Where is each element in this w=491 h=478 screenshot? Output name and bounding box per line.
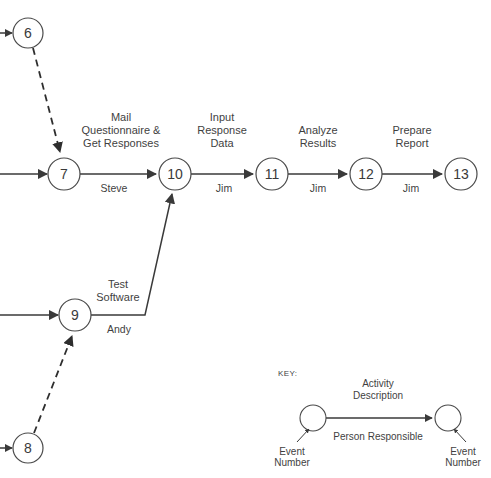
person-label-7-10: Steve xyxy=(101,182,128,194)
person-label-9-10: Andy xyxy=(107,323,132,335)
key-event-circle-left xyxy=(300,405,326,431)
activity-12-13-line1: Prepare xyxy=(392,124,431,136)
key-event-circle-right xyxy=(435,405,461,431)
key-pointer-left xyxy=(297,429,309,442)
key-event-right-line2: Number xyxy=(445,457,481,468)
node-9[interactable]: 9 xyxy=(59,299,91,331)
node-9-label: 9 xyxy=(71,307,79,323)
node-6-label: 6 xyxy=(24,25,32,41)
dummy-activity-6-to-7 xyxy=(33,48,60,152)
node-12-label: 12 xyxy=(358,166,374,182)
activity-10-11-line3: Data xyxy=(210,137,234,149)
person-label-11-12: Jim xyxy=(310,182,327,194)
node-11[interactable]: 11 xyxy=(256,158,288,190)
node-6[interactable]: 6 xyxy=(13,18,43,48)
network-diagram-canvas: 6 7 8 9 10 11 12 13 xyxy=(0,0,491,478)
node-7-label: 7 xyxy=(60,166,68,182)
activity-label-10-11: Input Response Data xyxy=(197,111,247,149)
activity-11-12-line1: Analyze xyxy=(298,124,337,136)
activity-7-10-line2: Questionnaire & xyxy=(82,124,162,136)
node-8[interactable]: 8 xyxy=(13,433,43,463)
key-event-left-line2: Number xyxy=(274,457,310,468)
activity-9-10-line2: Software xyxy=(96,291,139,303)
node-13-label: 13 xyxy=(453,166,469,182)
node-10-label: 10 xyxy=(167,166,183,182)
key-activity-line2: Description xyxy=(353,390,403,401)
key-pointer-right xyxy=(454,429,466,442)
key-legend: KEY: Activity Description Person Respons… xyxy=(274,369,481,468)
person-label-10-11: Jim xyxy=(216,182,233,194)
activity-12-13-line2: Report xyxy=(395,137,428,149)
key-title: KEY: xyxy=(278,369,297,378)
key-person-responsible: Person Responsible xyxy=(333,431,423,442)
key-event-right-line1: Event xyxy=(450,446,476,457)
node-12[interactable]: 12 xyxy=(350,158,382,190)
key-activity-line1: Activity xyxy=(362,378,394,389)
node-8-label: 8 xyxy=(24,440,32,456)
node-13[interactable]: 13 xyxy=(445,158,477,190)
activity-7-10-line1: Mail xyxy=(111,111,131,123)
node-10[interactable]: 10 xyxy=(159,158,191,190)
activity-11-12-line2: Results xyxy=(300,137,337,149)
activity-label-11-12: Analyze Results xyxy=(298,124,337,149)
activity-7-10-line3: Get Responses xyxy=(83,137,159,149)
activity-9-10-line1: Test xyxy=(108,278,128,290)
activity-10-11-line1: Input xyxy=(210,111,234,123)
node-7[interactable]: 7 xyxy=(48,158,80,190)
activity-label-12-13: Prepare Report xyxy=(392,124,431,149)
network-diagram: 6 7 8 9 10 11 12 13 xyxy=(0,0,491,478)
key-event-left-line1: Event xyxy=(279,446,305,457)
person-label-12-13: Jim xyxy=(403,182,420,194)
activity-label-7-10: Mail Questionnaire & Get Responses xyxy=(82,111,162,149)
dummy-activity-8-to-9 xyxy=(34,336,72,433)
activity-10-11-line2: Response xyxy=(197,124,247,136)
node-11-label: 11 xyxy=(265,166,280,182)
activity-label-9-10: Test Software xyxy=(96,278,139,303)
